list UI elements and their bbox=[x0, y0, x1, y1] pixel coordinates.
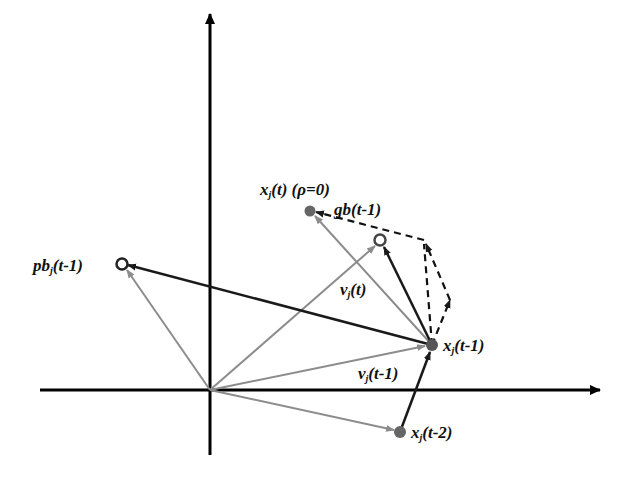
label-x-t: xj(t) (ρ=0) bbox=[260, 181, 330, 200]
xt-minus-1-to-pb-vector bbox=[128, 265, 432, 345]
dashed-pb-component bbox=[426, 244, 450, 300]
label-x-t-minus-1: xj(t-1) bbox=[443, 337, 485, 356]
pso-vector-diagram bbox=[0, 0, 629, 486]
xt-minus-1-to-gb-vector bbox=[384, 247, 432, 345]
label-v-t: vj(t) bbox=[340, 281, 366, 300]
label-v-t-minus-1: vj(t-1) bbox=[358, 365, 399, 384]
label-x-t-minus-2: xj(t-2) bbox=[411, 424, 453, 443]
origin-to-xt-minus-2-vector bbox=[210, 390, 394, 430]
xt-minus-2-to-xt-minus-1-vector bbox=[400, 352, 430, 432]
pb-point bbox=[117, 259, 128, 270]
origin-to-pb-vector bbox=[127, 270, 210, 390]
gb-point bbox=[375, 235, 386, 246]
xt-minus-2-point bbox=[394, 426, 406, 438]
label-pb: pbj(t-1) bbox=[33, 257, 83, 276]
label-gb: gb(t-1) bbox=[334, 201, 381, 218]
xt-minus-1-point bbox=[426, 339, 438, 351]
xt-point bbox=[305, 206, 316, 217]
origin-to-gb-vector bbox=[210, 246, 375, 390]
xt-minus-1-to-xt-vector bbox=[315, 216, 432, 345]
